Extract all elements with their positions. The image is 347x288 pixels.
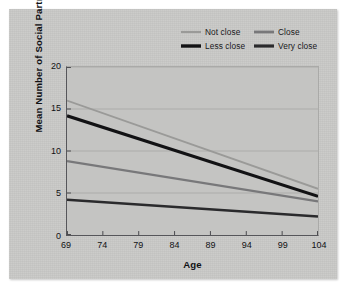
x-tick-label-69: 69 bbox=[61, 241, 71, 250]
x-tick-label-84: 84 bbox=[169, 241, 179, 250]
y-tick-label-5: 5 bbox=[56, 189, 61, 198]
legend-label-not-close: Not close bbox=[205, 28, 241, 36]
x-tick-label-104: 104 bbox=[311, 241, 326, 250]
legend-item-not-close: Not close bbox=[181, 25, 254, 39]
legend-label-very-close: Very close bbox=[278, 42, 317, 50]
chart-legend: Not close Close Less close Very close bbox=[181, 25, 341, 53]
y-tick-label-10: 10 bbox=[51, 147, 61, 156]
series-line-less-close bbox=[67, 116, 318, 197]
figure-card: Not close Close Less close Very close bbox=[9, 9, 337, 279]
legend-swatch-close bbox=[254, 28, 274, 36]
y-tick-label-20: 20 bbox=[51, 62, 61, 71]
y-axis-tick-labels: 05101520 bbox=[33, 61, 61, 241]
x-tick-label-74: 74 bbox=[97, 241, 107, 250]
series-line-not-close bbox=[67, 101, 318, 189]
x-tick-label-94: 94 bbox=[242, 241, 252, 250]
legend-item-less-close: Less close bbox=[181, 39, 254, 53]
series-line-very-close bbox=[67, 200, 318, 217]
legend-label-close: Close bbox=[278, 28, 300, 36]
series-line-close bbox=[67, 161, 318, 201]
x-axis-tick-labels: 69747984899499104 bbox=[66, 241, 319, 255]
legend-item-very-close: Very close bbox=[254, 39, 327, 53]
legend-label-less-close: Less close bbox=[205, 42, 245, 50]
legend-item-close: Close bbox=[254, 25, 327, 39]
plot-area bbox=[66, 66, 319, 236]
legend-swatch-not-close bbox=[181, 28, 201, 36]
plot-canvas bbox=[67, 67, 318, 235]
figure-root: Not close Close Less close Very close bbox=[0, 0, 347, 288]
legend-swatch-very-close bbox=[254, 42, 274, 50]
x-tick-label-99: 99 bbox=[278, 241, 288, 250]
legend-swatch-less-close bbox=[181, 42, 201, 50]
y-tick-label-15: 15 bbox=[51, 104, 61, 113]
x-tick-label-89: 89 bbox=[206, 241, 216, 250]
x-axis-title: Age bbox=[66, 259, 319, 270]
x-tick-label-79: 79 bbox=[133, 241, 143, 250]
